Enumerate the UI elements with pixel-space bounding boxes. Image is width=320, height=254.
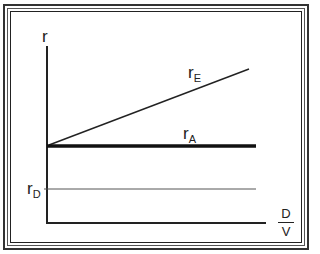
fraction-bar — [278, 222, 294, 223]
ra-label-main: r — [183, 124, 189, 143]
ra-label: rA — [183, 125, 196, 142]
x-axis-denominator: V — [282, 224, 291, 239]
re-label: rE — [188, 64, 201, 81]
y-axis-label: r — [42, 28, 48, 45]
rd-label: rD — [27, 180, 41, 197]
x-axis-numerator: D — [281, 206, 290, 221]
rd-label-main: r — [27, 179, 33, 198]
x-axis-label: D V — [278, 207, 294, 238]
re-line — [49, 69, 249, 145]
re-label-main: r — [188, 63, 194, 82]
rd-label-sub: D — [33, 188, 41, 200]
re-label-sub: E — [194, 72, 201, 84]
ra-label-sub: A — [189, 133, 196, 145]
